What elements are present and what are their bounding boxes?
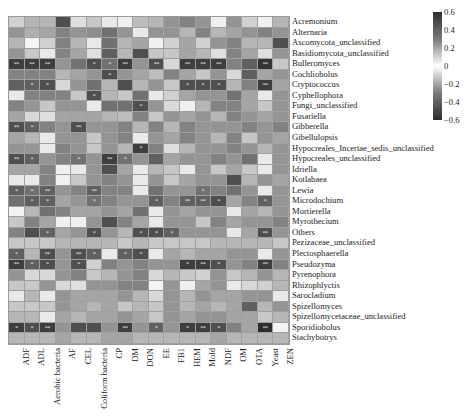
heatmap-cell xyxy=(118,238,134,249)
heatmap-cell xyxy=(258,207,274,218)
heatmap-cell xyxy=(56,312,72,323)
heatmap-cell xyxy=(118,133,134,144)
heatmap-cell: * xyxy=(25,80,41,91)
heatmap-cell xyxy=(87,101,103,112)
heatmap-cell xyxy=(149,238,165,249)
heatmap-cell xyxy=(196,302,212,313)
heatmap-cell xyxy=(71,17,87,28)
heatmap-cell xyxy=(133,38,149,49)
heatmap-cell xyxy=(133,333,149,344)
column-label: AF xyxy=(55,346,71,419)
heatmap-cell xyxy=(164,28,180,39)
row-label: Pezizaceae_unclassified xyxy=(292,237,434,248)
heatmap-cell xyxy=(40,38,56,49)
heatmap-cell xyxy=(196,28,212,39)
heatmap-cell xyxy=(273,238,289,249)
heatmap-cell xyxy=(242,323,258,334)
heatmap-cell xyxy=(196,207,212,218)
heatmap-cell xyxy=(273,165,289,176)
heatmap-cell xyxy=(71,133,87,144)
heatmap-cell xyxy=(71,49,87,60)
heatmap-cell xyxy=(102,49,118,60)
heatmap-cell xyxy=(164,196,180,207)
heatmap-cell xyxy=(56,28,72,39)
heatmap-cell xyxy=(196,238,212,249)
heatmap-cell xyxy=(149,17,165,28)
heatmap-cell xyxy=(164,144,180,155)
heatmap-cell: * xyxy=(118,249,134,260)
heatmap-cell xyxy=(87,281,103,292)
heatmap-cell xyxy=(87,133,103,144)
heatmap-cell xyxy=(242,207,258,218)
heatmap-cell xyxy=(118,17,134,28)
heatmap-cell xyxy=(273,144,289,155)
heatmap-cell xyxy=(180,270,196,281)
heatmap-cell xyxy=(133,165,149,176)
heatmap-cell xyxy=(133,80,149,91)
heatmap-cell xyxy=(87,112,103,123)
heatmap-cell: ** xyxy=(118,59,134,70)
heatmap-cell xyxy=(25,165,41,176)
heatmap-cell: * xyxy=(9,186,25,197)
colorbar-tick-label: 0.6 xyxy=(444,7,455,17)
heatmap-cell xyxy=(227,59,243,70)
column-label: HEM xyxy=(179,346,195,419)
heatmap-cell xyxy=(211,70,227,81)
heatmap-cell xyxy=(258,175,274,186)
heatmap-cell xyxy=(242,217,258,228)
heatmap-cell xyxy=(227,133,243,144)
heatmap-cell xyxy=(56,302,72,313)
heatmap-cell xyxy=(211,270,227,281)
heatmap-cell xyxy=(242,249,258,260)
heatmap-cell xyxy=(56,112,72,123)
colorbar-tick-label: −0.2 xyxy=(444,79,460,89)
heatmap-cell xyxy=(56,91,72,102)
heatmap-cell xyxy=(71,333,87,344)
heatmap-cell xyxy=(180,165,196,176)
heatmap-cell: * xyxy=(180,260,196,271)
heatmap-cell xyxy=(273,70,289,81)
row-label: Microdochium xyxy=(292,195,434,206)
heatmap-cell xyxy=(56,38,72,49)
heatmap-cell xyxy=(56,165,72,176)
heatmap-cell xyxy=(149,249,165,260)
row-label: Alternaria xyxy=(292,27,434,38)
heatmap-cell xyxy=(118,91,134,102)
heatmap-cell xyxy=(258,249,274,260)
heatmap-cell xyxy=(133,133,149,144)
heatmap-cell xyxy=(273,175,289,186)
heatmap-cell xyxy=(196,291,212,302)
row-label: Stachybotrys xyxy=(292,332,434,343)
heatmap-cell xyxy=(273,207,289,218)
heatmap-cell: * xyxy=(211,323,227,334)
row-labels: AcremoniumAlternariaAscomycota_unclassif… xyxy=(292,16,434,343)
heatmap-cell xyxy=(87,238,103,249)
heatmap-cell xyxy=(118,175,134,186)
heatmap-cell xyxy=(164,17,180,28)
heatmap-cell xyxy=(149,133,165,144)
heatmap-cell xyxy=(25,70,41,81)
heatmap-cell xyxy=(87,217,103,228)
heatmap-cell xyxy=(71,302,87,313)
heatmap-cell xyxy=(227,260,243,271)
heatmap-cell xyxy=(242,228,258,239)
heatmap-cell xyxy=(196,154,212,165)
heatmap-cell xyxy=(196,70,212,81)
heatmap-cell xyxy=(9,28,25,39)
heatmap-cell: ** xyxy=(25,59,41,70)
row-label: Rhizophlyctis xyxy=(292,280,434,291)
heatmap-cell: * xyxy=(40,196,56,207)
heatmap-cell xyxy=(87,270,103,281)
heatmap-cell xyxy=(133,17,149,28)
heatmap-cell xyxy=(196,38,212,49)
heatmap-cell xyxy=(118,217,134,228)
heatmap-cell xyxy=(258,281,274,292)
heatmap-cell: * xyxy=(25,323,41,334)
heatmap-cell xyxy=(273,217,289,228)
heatmap-cell xyxy=(180,101,196,112)
heatmap-cell xyxy=(196,228,212,239)
heatmap-cell xyxy=(9,101,25,112)
heatmap-cell xyxy=(71,238,87,249)
heatmap-cell: ** xyxy=(102,154,118,165)
heatmap-cell xyxy=(118,112,134,123)
